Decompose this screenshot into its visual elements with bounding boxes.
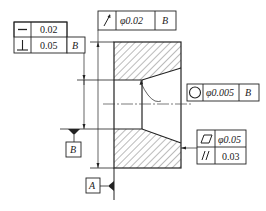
gdt-drawing: φ0.02 B 0.02 0.05 B φ0.005 B bbox=[0, 0, 266, 211]
datum-b-label: B bbox=[70, 144, 76, 155]
datum-b: B bbox=[66, 129, 81, 157]
datum-triangle-icon bbox=[68, 129, 80, 135]
runout-tolerance: φ0.02 bbox=[120, 15, 143, 26]
runout-frame: φ0.02 B bbox=[98, 11, 176, 30]
parallelism-tolerance: 0.03 bbox=[222, 151, 240, 162]
flatness-tolerance: φ0.05 bbox=[218, 134, 241, 145]
perpendicularity-tolerance: 0.05 bbox=[40, 40, 58, 51]
circularity-datum: B bbox=[245, 87, 251, 98]
straightness-tolerance: 0.02 bbox=[40, 24, 58, 35]
flatness-parallelism-frame: φ0.05 0.03 bbox=[181, 130, 246, 164]
datum-triangle-icon bbox=[108, 181, 114, 191]
runout-datum: B bbox=[162, 15, 168, 26]
perpendicularity-datum: B bbox=[72, 40, 78, 51]
circularity-tolerance: φ0.005 bbox=[206, 87, 234, 98]
circularity-frame: φ0.005 B bbox=[140, 80, 260, 102]
part-section bbox=[103, 42, 192, 168]
form-frame: 0.02 0.05 B bbox=[14, 22, 85, 53]
datum-a-label: A bbox=[88, 180, 96, 191]
datum-a: A bbox=[86, 168, 114, 200]
